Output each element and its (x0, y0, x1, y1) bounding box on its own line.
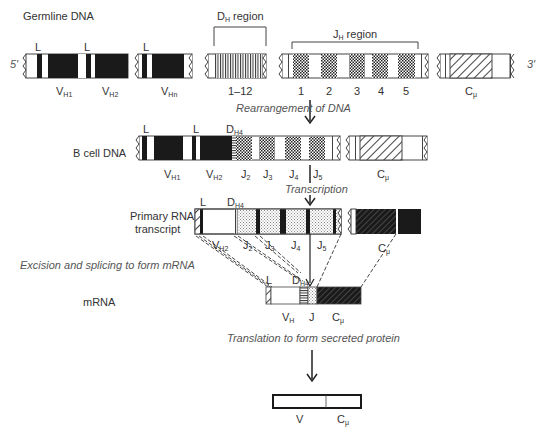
d-region-label: DH region (217, 10, 264, 23)
five-prime-label: 5' (10, 58, 19, 70)
j4-label: J4 (291, 239, 301, 252)
j4-label: J4 (289, 168, 299, 181)
j1-label: 1 (298, 85, 304, 97)
c-mu-label: Cμ (465, 85, 477, 99)
rearrangement-label: Rearrangement of DNA (236, 102, 351, 114)
primary-rna-label-line2: transcript (135, 223, 180, 235)
j4-label: 4 (378, 85, 384, 97)
j5-label: J5 (313, 168, 323, 181)
rearrangement-step: Rearrangement of DNA (236, 100, 351, 123)
secreted-protein: V Cμ (273, 395, 361, 427)
leader-label: L (35, 41, 41, 53)
j3-label: 3 (354, 85, 360, 97)
bcell-dna-row: B cell DNA L L DH4 VH1 VH2 J2 J3 J4 J5 C… (73, 123, 427, 182)
protein-c-mu-label: Cμ (337, 413, 349, 427)
v-gene-block-1: L L (23, 41, 128, 78)
j2-label: 2 (326, 85, 332, 97)
j3-label: J3 (263, 168, 273, 181)
three-prime-label: 3' (527, 58, 536, 70)
leader-label: L (143, 123, 149, 135)
v-h2-label: VH2 (212, 239, 228, 252)
leader-label: L (193, 123, 199, 135)
c-mu-label: Cμ (378, 242, 390, 256)
d-h4-label: DH4 (226, 123, 243, 136)
d-h4-label: DH4 (227, 196, 244, 209)
bcell-dna-label: B cell DNA (73, 147, 127, 159)
j-region-block: JH region 1 2 3 4 5 (279, 28, 428, 97)
j2-label: J2 (241, 168, 251, 181)
v-h-label: VH (282, 311, 294, 324)
splicing-label: Excision and splicing to form mRNA (20, 259, 195, 271)
germline-dna-label: Germline DNA (23, 10, 95, 22)
primary-rna-row: Primary RNA transcript L DH4 VH2 J2 J3 J… (130, 196, 421, 256)
j5-label: J5 (317, 239, 327, 252)
c-mu-block: Cμ (437, 54, 514, 99)
v-h2-label: VH2 (102, 85, 118, 98)
germline-dna-row: Germline DNA 5' L L L VH1 VH2 VHn (10, 10, 536, 99)
v-h1-label: VH1 (56, 85, 72, 98)
v-gene-block-n: L (135, 41, 192, 78)
protein-v-label: V (296, 413, 304, 425)
j5-label: 5 (403, 85, 409, 97)
leader-label: L (143, 41, 149, 53)
j-region-label: JH region (333, 28, 377, 41)
d-h4-lower-label: DH4 (292, 274, 309, 287)
c-mu-label: Cμ (377, 168, 389, 182)
c-mu-label: Cμ (332, 311, 344, 325)
mrna-label: mRNA (83, 296, 116, 308)
d-region-block: DH region 1–12 (205, 10, 266, 97)
primary-rna-label-line1: Primary RNA (130, 210, 195, 222)
leader-label: L (200, 196, 206, 208)
mrna-row: mRNA L VH J Cμ (83, 274, 361, 325)
translation-step: Translation to form secreted protein (227, 332, 400, 381)
v-h1-label: VH1 (164, 168, 180, 181)
diagram-canvas: Germline DNA 5' L L L VH1 VH2 VHn (0, 0, 553, 434)
j-label: J (309, 311, 315, 323)
v-h2-label: VH2 (206, 168, 222, 181)
leader-label: L (266, 274, 272, 286)
translation-label: Translation to form secreted protein (227, 332, 400, 344)
leader-label: L (84, 41, 90, 53)
d-range-label: 1–12 (228, 85, 252, 97)
v-hn-label: VHn (161, 85, 177, 98)
transcription-label: Transcription (285, 183, 348, 195)
